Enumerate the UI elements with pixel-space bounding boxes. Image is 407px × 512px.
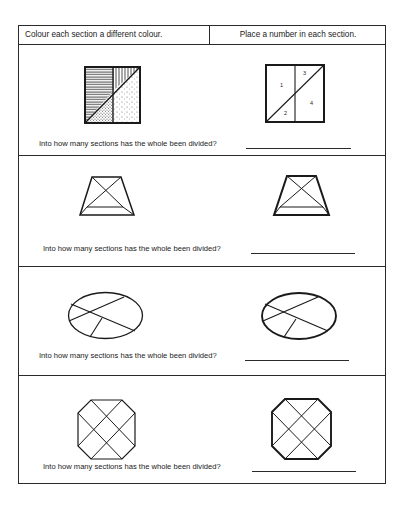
question-text: Into how many sections has the whole bee… xyxy=(39,351,217,360)
section-number-3: 3 xyxy=(303,70,306,76)
instructions-header: Colour each section a different colour. … xyxy=(19,26,385,45)
numbered-trapezoid[interactable] xyxy=(274,176,329,215)
answer-field[interactable] xyxy=(246,148,351,149)
question-text: Into how many sections has the whole bee… xyxy=(43,462,221,471)
answer-field[interactable] xyxy=(251,253,355,254)
exercise-row-square: 1 3 2 4 Into how many sections has the w… xyxy=(19,45,385,156)
exercise-row-octagon: Into how many sections has the whole bee… xyxy=(19,376,385,485)
question-text: Into how many sections has the whole bee… xyxy=(39,139,217,148)
coloured-octagon[interactable] xyxy=(78,400,135,459)
section-number-2: 2 xyxy=(284,110,287,116)
section-number-1: 1 xyxy=(280,82,283,88)
numbered-octagon[interactable] xyxy=(272,399,331,459)
answer-field[interactable] xyxy=(252,471,356,472)
exercise-row-ellipse: Into how many sections has the whole bee… xyxy=(19,267,385,376)
colour-instruction: Colour each section a different colour. xyxy=(19,26,210,44)
question-text: Into how many sections has the whole bee… xyxy=(43,244,221,253)
coloured-ellipse[interactable] xyxy=(69,293,143,339)
number-instruction: Place a number in each section. xyxy=(210,26,386,44)
numbered-square[interactable]: 1 3 2 4 xyxy=(266,65,324,122)
worksheet: Colour each section a different colour. … xyxy=(18,25,386,484)
numbered-ellipse[interactable] xyxy=(262,293,336,339)
coloured-square[interactable] xyxy=(85,67,140,123)
exercise-row-trapezoid: Into how many sections has the whole bee… xyxy=(19,156,385,267)
answer-field[interactable] xyxy=(245,360,349,361)
coloured-trapezoid[interactable] xyxy=(80,177,134,215)
section-number-4: 4 xyxy=(310,100,313,106)
